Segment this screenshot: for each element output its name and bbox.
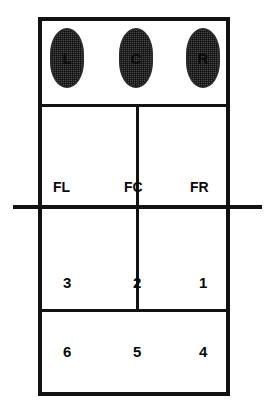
bench-divider-line [38, 104, 230, 107]
back-row-divider-line [38, 309, 230, 312]
bench-seat-left[interactable]: L [50, 28, 84, 88]
court-diagram: L C R FL FC FR 3 2 1 6 5 4 [0, 0, 278, 420]
attack-line [13, 205, 262, 209]
position-number-1: 1 [199, 275, 207, 290]
bench-seat-center-label: C [131, 51, 142, 66]
position-number-5: 5 [133, 344, 141, 359]
zone-caption-front-right: FR [190, 180, 209, 194]
zone-caption-front-center: FC [124, 180, 143, 194]
zone-caption-front-left: FL [53, 180, 70, 194]
bench-seat-right-label: R [198, 51, 209, 66]
bench-seat-center[interactable]: C [119, 28, 153, 88]
position-number-4: 4 [199, 344, 207, 359]
position-number-3: 3 [63, 275, 71, 290]
position-number-6: 6 [63, 344, 71, 359]
position-number-2: 2 [133, 275, 141, 290]
bench-seat-right[interactable]: R [186, 28, 220, 88]
bench-seat-left-label: L [62, 51, 71, 66]
